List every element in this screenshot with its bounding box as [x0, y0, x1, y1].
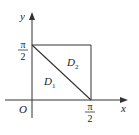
- y-tick-numerator: π: [20, 39, 25, 50]
- y-axis-label: y: [19, 10, 25, 22]
- origin-label: O: [19, 103, 27, 115]
- y-tick-denominator: 2: [21, 51, 26, 62]
- x-tick-denominator: 2: [88, 113, 93, 124]
- diagonal-line: [32, 45, 91, 100]
- region-d2-label: D2: [66, 56, 79, 71]
- coordinate-diagram: y x O π 2 π 2 D1 D2: [0, 0, 139, 135]
- x-axis-label: x: [120, 102, 126, 114]
- x-tick-numerator: π: [87, 101, 92, 112]
- region-d1-label: D1: [43, 75, 56, 90]
- y-axis-arrow-icon: [29, 12, 35, 20]
